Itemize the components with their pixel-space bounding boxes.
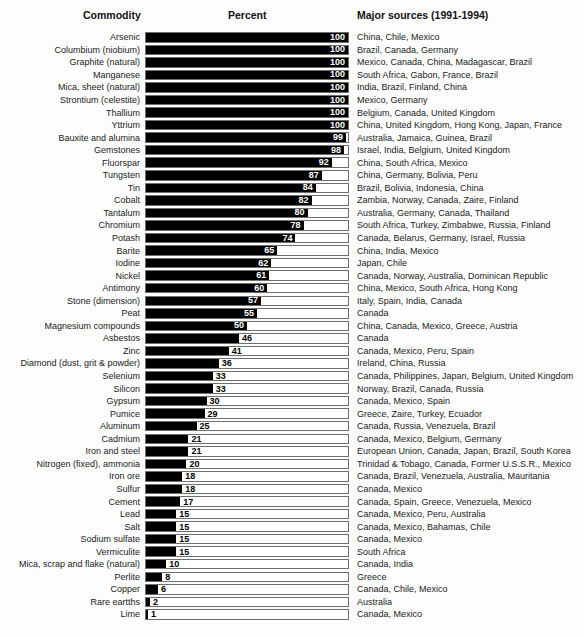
commodity-label: Selenium bbox=[0, 371, 145, 381]
commodity-row: Rare eartths 2 Australia bbox=[0, 596, 584, 609]
bar bbox=[146, 460, 186, 469]
bar: 100 bbox=[146, 58, 348, 67]
commodity-row: Pumice 29 Greece, Zaire, Turkey, Ecuador bbox=[0, 407, 584, 420]
commodity-row: Columbium (niobium) 100 Brazil, Canada, … bbox=[0, 44, 584, 57]
sources-label: India, Brazil, Finland, China bbox=[349, 82, 584, 92]
commodity-label: Iron and steel bbox=[0, 446, 145, 456]
commodity-row: Perlite 8 Greece bbox=[0, 571, 584, 584]
commodity-row: Potash 74 Canada, Belarus, Germany, Isra… bbox=[0, 232, 584, 245]
bar-track: 100 bbox=[145, 82, 349, 93]
bar-track: 87 bbox=[145, 170, 349, 181]
bar: 65 bbox=[146, 246, 277, 255]
commodity-label: Gemstones bbox=[0, 145, 145, 155]
bar bbox=[146, 422, 197, 431]
bar: 100 bbox=[146, 71, 348, 80]
percent-value: 15 bbox=[179, 535, 189, 544]
bar-track: 2 bbox=[145, 597, 349, 608]
sources-label: Israel, India, Belgium, United Kingdom bbox=[349, 145, 584, 155]
bar: 84 bbox=[146, 184, 316, 193]
bar-track: 46 bbox=[145, 333, 349, 344]
bar-track: 50 bbox=[145, 321, 349, 332]
sources-label: Belgium, Canada, United Kingdom bbox=[349, 108, 584, 118]
bar-track: 57 bbox=[145, 296, 349, 307]
commodity-label: Fluorspar bbox=[0, 158, 145, 168]
sources-label: Mexico, Canada, China, Madagascar, Brazi… bbox=[349, 57, 584, 67]
bar-track: 10 bbox=[145, 559, 349, 570]
bar-track: 100 bbox=[145, 32, 349, 43]
sources-label: Canada bbox=[349, 333, 584, 343]
commodity-row: Sulfur 18 Canada, Mexico bbox=[0, 483, 584, 496]
bar-track: 82 bbox=[145, 195, 349, 206]
bar-track: 30 bbox=[145, 396, 349, 407]
commodity-row: Sodium sulfate 15 Canada, Mexico bbox=[0, 533, 584, 546]
commodity-label: Cobalt bbox=[0, 195, 145, 205]
commodity-row: Cobalt 82 Zambia, Norway, Canada, Zaire,… bbox=[0, 194, 584, 207]
bar-track: 100 bbox=[145, 95, 349, 106]
sources-label: Canada, Mexico bbox=[349, 484, 584, 494]
commodity-row: Iodine 62 Japan, Chile bbox=[0, 257, 584, 270]
percent-value: 100 bbox=[330, 58, 345, 67]
sources-label: China, Mexico, South Africa, Hong Kong bbox=[349, 283, 584, 293]
percent-value: 92 bbox=[319, 158, 329, 167]
commodity-row: Tin 84 Brazil, Bolivia, Indonesia, China bbox=[0, 182, 584, 195]
bar-track: 29 bbox=[145, 408, 349, 419]
sources-label: Canada, Mexico, Peru, Spain bbox=[349, 346, 584, 356]
percent-value: 20 bbox=[189, 460, 199, 469]
commodity-row: Bauxite and alumina 99 Australia, Jamaic… bbox=[0, 131, 584, 144]
bar bbox=[146, 510, 176, 519]
bar-track: 100 bbox=[145, 120, 349, 131]
commodity-row: Aluminum 25 Canada, Russia, Venezuela, B… bbox=[0, 420, 584, 433]
sources-label: Canada, Mexico bbox=[349, 609, 584, 619]
commodity-label: Iron ore bbox=[0, 471, 145, 481]
bar bbox=[146, 397, 207, 406]
bar bbox=[146, 472, 182, 481]
percent-value: 84 bbox=[303, 184, 313, 193]
commodity-row: Vermiculite 15 South Africa bbox=[0, 545, 584, 558]
bar-track: 15 bbox=[145, 509, 349, 520]
bar-track: 21 bbox=[145, 446, 349, 457]
sources-label: Ireland, China, Russia bbox=[349, 358, 584, 368]
commodity-row: Mica, sheet (natural) 100 India, Brazil,… bbox=[0, 81, 584, 94]
bar-track: 65 bbox=[145, 245, 349, 256]
commodity-row: Fluorspar 92 China, South Africa, Mexico bbox=[0, 156, 584, 169]
commodity-label: Sodium sulfate bbox=[0, 534, 145, 544]
bar: 55 bbox=[146, 309, 257, 318]
bar-track: 21 bbox=[145, 434, 349, 445]
bar-rows-container: Arsenic 100 China, Chile, Mexico Columbi… bbox=[0, 31, 584, 621]
sources-label: Canada, Brazil, Venezuela, Australia, Ma… bbox=[349, 471, 584, 481]
percent-value: 50 bbox=[234, 322, 244, 331]
commodity-row: Tantalum 80 Australia, Germany, Canada, … bbox=[0, 207, 584, 220]
column-header-commodity: Commodity bbox=[83, 9, 141, 21]
sources-label: Italy, Spain, India, Canada bbox=[349, 296, 584, 306]
percent-value: 15 bbox=[179, 547, 189, 556]
bar-track: 61 bbox=[145, 270, 349, 281]
commodity-row: Diamond (dust, grit & powder) 36 Ireland… bbox=[0, 357, 584, 370]
bar: 98 bbox=[146, 146, 344, 155]
bar: 99 bbox=[146, 133, 346, 142]
bar-track: 80 bbox=[145, 208, 349, 219]
commodity-label: Nickel bbox=[0, 271, 145, 281]
sources-label: Mexico, Germany bbox=[349, 95, 584, 105]
bar: 80 bbox=[146, 209, 308, 218]
bar-track: 36 bbox=[145, 358, 349, 369]
commodity-row: Lead 15 Canada, Mexico, Peru, Australia bbox=[0, 508, 584, 521]
percent-value: 17 bbox=[183, 497, 193, 506]
commodity-label: Strontium (celestite) bbox=[0, 95, 145, 105]
commodity-row: Mica, scrap and flake (natural) 10 Canad… bbox=[0, 558, 584, 571]
commodity-row: Lime 1 Canada, Mexico bbox=[0, 608, 584, 621]
commodity-row: Asbestos 46 Canada bbox=[0, 332, 584, 345]
bar-track: 55 bbox=[145, 308, 349, 319]
commodity-row: Peat 55 Canada bbox=[0, 307, 584, 320]
sources-label: Canada, Norway, Australia, Dominican Rep… bbox=[349, 271, 584, 281]
bar bbox=[146, 347, 229, 356]
column-header-sources: Major sources (1991-1994) bbox=[357, 9, 488, 21]
commodity-row: Graphite (natural) 100 Mexico, Canada, C… bbox=[0, 56, 584, 69]
commodity-row: Tungsten 87 China, Germany, Bolivia, Per… bbox=[0, 169, 584, 182]
sources-label: Canada, Philippines, Japan, Belgium, Uni… bbox=[349, 371, 584, 381]
sources-label: Trinidad & Tobago, Canada, Former U.S.S.… bbox=[349, 459, 584, 469]
commodity-label: Pumice bbox=[0, 409, 145, 419]
sources-label: South Africa, Gabon, France, Brazil bbox=[349, 70, 584, 80]
commodity-label: Rare eartths bbox=[0, 597, 145, 607]
bar-track: 15 bbox=[145, 534, 349, 545]
sources-label: China, Germany, Bolivia, Peru bbox=[349, 170, 584, 180]
